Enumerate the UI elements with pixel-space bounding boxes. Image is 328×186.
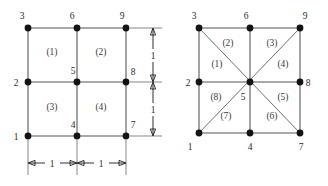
tri-node-dot-8 <box>297 79 304 86</box>
tri-node-label-3: 3 <box>192 11 197 21</box>
tri-node-dot-6 <box>247 25 254 32</box>
tri-node-label-6: 6 <box>244 11 249 21</box>
tri-node-dot-7 <box>297 130 304 137</box>
tri-element-label-4: (4) <box>277 59 288 70</box>
node-label-3: 3 <box>20 11 25 21</box>
node-dot-3 <box>25 25 32 32</box>
node-label-7: 7 <box>131 120 136 130</box>
horizontal-dimension-group: 1 1 <box>28 140 126 175</box>
dimension-label-width-right: 1 <box>99 159 104 169</box>
element-label-3: (3) <box>46 102 57 113</box>
tri-node-label-8: 8 <box>306 78 311 88</box>
tri-node-label-5: 5 <box>241 92 246 102</box>
node-label-8: 8 <box>131 67 136 77</box>
node-label-9: 9 <box>120 11 125 21</box>
tri-node-label-9: 9 <box>303 11 308 21</box>
tri-element-label-1: (1) <box>211 59 222 70</box>
element-label-1: (1) <box>46 47 57 58</box>
node-dot-7 <box>123 133 130 140</box>
figure-container: (1) (2) (3) (4) 1 2 3 <box>0 0 328 186</box>
tri-node-dot-2 <box>196 79 203 86</box>
tri-element-label-6: (6) <box>266 111 277 122</box>
tri-element-label-8: (8) <box>210 92 221 103</box>
tri-node-label-4: 4 <box>248 142 253 152</box>
tri-element-label-2: (2) <box>222 38 233 49</box>
node-dot-1 <box>25 133 32 140</box>
mesh-figure-svg: (1) (2) (3) (4) 1 2 3 <box>0 0 328 186</box>
tri-node-dot-9 <box>297 25 304 32</box>
element-label-2: (2) <box>95 47 106 58</box>
tri-node-label-1: 1 <box>188 142 193 152</box>
node-dot-9 <box>123 25 130 32</box>
node-label-5: 5 <box>71 66 76 76</box>
node-dot-2 <box>25 79 32 86</box>
tri-element-label-7: (7) <box>220 111 231 122</box>
dimension-label-height-bottom: 1 <box>151 105 156 115</box>
tri-node-label-2: 2 <box>186 78 191 88</box>
node-label-4: 4 <box>71 120 76 130</box>
tri-node-dot-3 <box>196 25 203 32</box>
node-dot-6 <box>74 25 81 32</box>
node-label-2: 2 <box>14 78 19 88</box>
tri-element-label-3: (3) <box>266 38 277 49</box>
dimension-label-width-left: 1 <box>50 159 55 169</box>
left-mesh-node-labels: 1 2 3 4 5 6 7 8 9 <box>14 11 136 142</box>
node-dot-8 <box>123 79 130 86</box>
node-label-1: 1 <box>14 132 19 142</box>
dimension-label-height-top: 1 <box>151 51 156 61</box>
left-quadrilateral-mesh: (1) (2) (3) (4) 1 2 3 <box>14 11 162 175</box>
tri-node-dot-4 <box>247 130 254 137</box>
tri-element-label-5: (5) <box>277 92 288 103</box>
node-dot-4 <box>74 133 81 140</box>
tri-node-label-7: 7 <box>299 142 304 152</box>
node-dot-5 <box>74 79 81 86</box>
tri-node-dot-5 <box>247 79 254 86</box>
tri-node-dot-1 <box>196 130 203 137</box>
node-label-6: 6 <box>70 11 75 21</box>
right-triangular-mesh: (1) (2) (3) (4) (5) (6) (7) (8) <box>186 11 311 152</box>
element-label-4: (4) <box>95 102 106 113</box>
